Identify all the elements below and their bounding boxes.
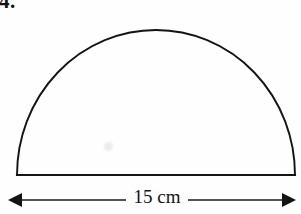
dimension-arrowhead-left-icon [8,193,22,207]
semicircle-diagram-svg [0,0,301,214]
semicircle-arc [17,30,295,175]
geometry-figure: 4. 15 cm [0,0,301,214]
diameter-dimension-label: 15 cm [126,186,188,208]
dimension-arrowhead-right-icon [282,193,296,207]
